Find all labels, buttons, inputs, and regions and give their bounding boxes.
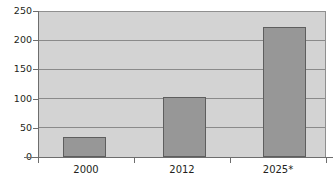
y-tick-50 (33, 128, 38, 129)
y-tick-label-150: 150 (2, 64, 32, 74)
y-tick-200 (33, 40, 38, 41)
y-tick-100 (33, 99, 38, 100)
bar-chart: 250 200 150 100 50 0 2000 2012 2025* (0, 0, 333, 181)
x-tick-1 (134, 158, 135, 163)
x-axis-line (24, 157, 333, 158)
bar-2025[interactable] (263, 27, 306, 157)
x-tick-right (326, 158, 327, 163)
bar-2012[interactable] (163, 97, 206, 157)
x-tick-2 (230, 158, 231, 163)
y-tick-150 (33, 69, 38, 70)
x-tick-left (38, 158, 39, 163)
x-tick-label-2025: 2025* (248, 164, 308, 176)
y-tick-label-200: 200 (2, 35, 32, 45)
y-tick-250 (33, 11, 38, 12)
y-tick-label-250: 250 (2, 6, 32, 16)
y-axis-line (38, 11, 39, 158)
x-tick-label-2012: 2012 (152, 164, 212, 176)
x-tick-label-2000: 2000 (56, 164, 116, 176)
y-axis-tick-labels: 250 200 150 100 50 0 (0, 0, 32, 181)
plot-area (38, 11, 326, 158)
bar-2000[interactable] (63, 137, 106, 157)
y-tick-label-100: 100 (2, 94, 32, 104)
y-tick-label-50: 50 (2, 123, 32, 133)
